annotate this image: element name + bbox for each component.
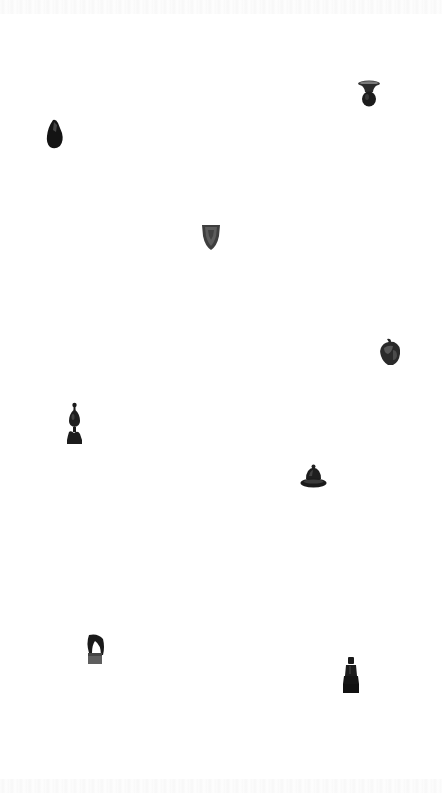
artifact-shield[interactable]: [201, 224, 221, 251]
artifact-stone[interactable]: [46, 119, 64, 150]
vase-icon: [357, 80, 381, 108]
top-edge-noise: [0, 0, 442, 14]
domed-bowl-icon: [300, 464, 327, 490]
artifact-seated-statue[interactable]: [342, 656, 360, 694]
helmet-icon: [378, 338, 402, 367]
artifact-scene: [0, 0, 442, 793]
artifact-vase[interactable]: [357, 80, 381, 108]
artifact-helmet[interactable]: [378, 338, 402, 367]
artifact-domed-bowl[interactable]: [300, 464, 327, 490]
artifact-figurine[interactable]: [65, 402, 84, 445]
shield-icon: [201, 224, 221, 251]
bottom-edge-noise: [0, 779, 442, 793]
seated-statue-icon: [342, 656, 360, 694]
stone-icon: [46, 119, 64, 150]
figurine-icon: [65, 402, 84, 445]
blade-icon: [86, 633, 106, 665]
artifact-blade[interactable]: [86, 633, 106, 665]
